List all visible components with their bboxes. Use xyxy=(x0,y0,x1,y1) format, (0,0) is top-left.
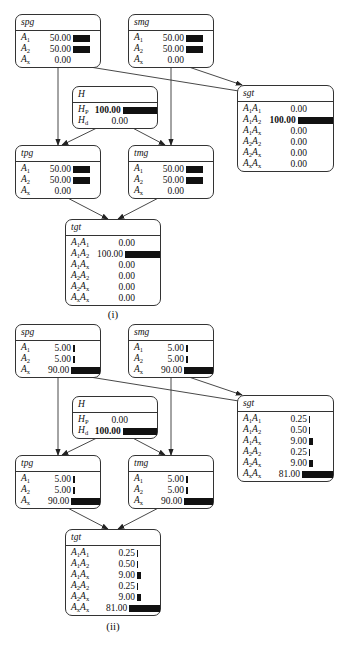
probability-bar xyxy=(302,471,333,478)
state-label: AxAx xyxy=(71,602,97,615)
state-value: 5.00 xyxy=(43,343,71,354)
probability-bar xyxy=(129,605,160,612)
node-tgt: tgtA1A10.25A1A20.50A1Ax9.00A2A20.25A2Ax9… xyxy=(65,529,161,616)
state-label: Ax xyxy=(21,54,43,67)
state-value: 9.00 xyxy=(101,592,135,603)
state-value: 81.00 xyxy=(97,603,127,614)
node-title: smg xyxy=(129,325,213,341)
state-label: AxAx xyxy=(243,158,273,171)
state-value: 90.00 xyxy=(42,365,69,376)
node-tpg: tpgA150.00A250.00Ax0.00 xyxy=(15,145,101,199)
probability-bar xyxy=(309,427,310,434)
probability-bar xyxy=(184,367,213,374)
probability-bar xyxy=(186,345,188,352)
state-value: 50.00 xyxy=(156,175,184,186)
state-value: 50.00 xyxy=(43,175,71,186)
probability-bar xyxy=(73,166,90,173)
node-spg: spgA15.00A25.00Ax90.00 xyxy=(15,324,101,378)
node-tmg: tmgA150.00A250.00Ax0.00 xyxy=(128,145,214,199)
state-value: 0.00 xyxy=(156,55,184,66)
node-H: HHP0.00Hd100.00 xyxy=(72,396,158,439)
state-value: 0.00 xyxy=(273,126,307,137)
state-row: Ax90.00 xyxy=(21,365,100,376)
state-value: 50.00 xyxy=(43,33,71,44)
state-row: Hd100.00 xyxy=(78,426,157,437)
probability-bar xyxy=(137,550,138,557)
state-label: Hd xyxy=(78,425,93,438)
state-value: 0.00 xyxy=(101,271,135,282)
node-title: tpg xyxy=(16,456,100,472)
state-value: 0.00 xyxy=(43,55,71,66)
state-row: AxAx81.00 xyxy=(71,603,160,614)
probability-bar xyxy=(73,487,75,494)
probability-bar xyxy=(184,498,213,505)
state-value: 50.00 xyxy=(156,33,184,44)
node-title: H xyxy=(73,397,157,413)
state-value: 0.50 xyxy=(273,425,307,436)
node-title: H xyxy=(73,87,157,103)
node-smg: smgA150.00A250.00Ax0.00 xyxy=(128,14,214,68)
state-row: Ax0.00 xyxy=(21,186,100,197)
node-tpg: tpgA15.00A25.00Ax90.00 xyxy=(15,455,101,509)
state-value: 0.00 xyxy=(101,293,135,304)
probability-bar xyxy=(298,117,333,124)
state-value: 90.00 xyxy=(155,365,182,376)
state-value: 5.00 xyxy=(156,343,184,354)
state-value: 0.00 xyxy=(273,137,307,148)
diagram-panel-1: spgA150.00A250.00Ax0.00smgA150.00A250.00… xyxy=(0,0,347,325)
probability-bar xyxy=(73,476,75,483)
probability-bar xyxy=(125,251,160,258)
state-label: Ax xyxy=(21,185,43,198)
probability-bar xyxy=(186,487,188,494)
node-sgt: sgtA1A10.25A1A20.50A1Ax9.00A2A20.25A2Ax9… xyxy=(237,395,334,482)
state-row: Ax90.00 xyxy=(21,496,100,507)
state-value: 0.25 xyxy=(101,581,135,592)
probability-bar xyxy=(186,35,203,42)
state-label: Hd xyxy=(78,115,96,128)
node-sgt: sgtA1A10.00A1A2100.00A1Ax0.00A2A20.00A2A… xyxy=(237,85,334,172)
node-smg: smgA15.00A25.00Ax90.00 xyxy=(128,324,214,378)
state-row: Hd0.00 xyxy=(78,116,157,127)
state-label: Ax xyxy=(134,364,155,377)
state-value: 5.00 xyxy=(156,354,184,365)
state-value: 100.00 xyxy=(93,105,120,116)
diagram-panel-2: spgA15.00A25.00Ax90.00smgA15.00A25.00Ax9… xyxy=(0,310,347,635)
probability-bar xyxy=(137,572,141,579)
state-value: 100.00 xyxy=(93,426,120,437)
state-value: 50.00 xyxy=(156,164,184,175)
state-row: Ax0.00 xyxy=(134,186,213,197)
state-value: 90.00 xyxy=(42,496,69,507)
state-value: 0.00 xyxy=(96,116,128,127)
diagram-caption: (ii) xyxy=(93,620,133,632)
node-title: sgt xyxy=(238,86,333,102)
state-value: 0.00 xyxy=(43,186,71,197)
state-value: 0.25 xyxy=(273,414,307,425)
node-title: tmg xyxy=(129,146,213,162)
state-value: 0.00 xyxy=(156,186,184,197)
state-value: 0.00 xyxy=(96,415,128,426)
state-label: Ax xyxy=(21,364,42,377)
state-label: Ax xyxy=(134,185,156,198)
probability-bar xyxy=(186,476,188,483)
state-label: Ax xyxy=(21,495,42,508)
node-title: sgt xyxy=(238,396,333,412)
state-row: Ax0.00 xyxy=(134,55,213,66)
node-title: tgt xyxy=(66,530,160,546)
state-value: 0.25 xyxy=(101,548,135,559)
probability-bar xyxy=(73,46,90,53)
probability-bar xyxy=(123,107,157,114)
node-title: tmg xyxy=(129,456,213,472)
state-row: AxAx0.00 xyxy=(71,293,160,304)
state-value: 0.50 xyxy=(101,559,135,570)
state-row: Ax90.00 xyxy=(134,496,213,507)
node-title: tpg xyxy=(16,146,100,162)
probability-bar xyxy=(186,46,203,53)
probability-bar xyxy=(73,356,75,363)
state-value: 0.00 xyxy=(273,148,307,159)
node-tmg: tmgA15.00A25.00Ax90.00 xyxy=(128,455,214,509)
state-label: AxAx xyxy=(243,468,270,481)
state-value: 90.00 xyxy=(155,496,182,507)
node-H: HHP100.00Hd0.00 xyxy=(72,86,158,129)
state-label: Ax xyxy=(134,54,156,67)
state-value: 5.00 xyxy=(43,354,71,365)
